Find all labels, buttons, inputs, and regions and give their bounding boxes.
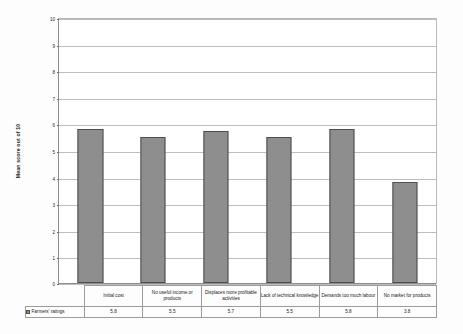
category-label-cell: Lack of technical knowledge <box>260 286 319 307</box>
y-tick-label-3: 3 <box>52 203 55 208</box>
bar <box>329 129 354 283</box>
y-tick-label-2: 2 <box>52 229 55 234</box>
data-table: Initial costNo useful income or products… <box>25 285 437 318</box>
table-row-values: Farmers' ratings5.85.55.75.55.83.8 <box>26 307 437 318</box>
value-cell: 3.8 <box>378 307 437 318</box>
category-label-cell: Displaces more profitable activities <box>202 286 261 307</box>
y-tick-label-5: 5 <box>52 150 55 155</box>
legend-entry: Farmers' ratings <box>26 307 85 318</box>
bar-slot <box>310 19 373 283</box>
value-cell: 5.5 <box>143 307 202 318</box>
y-tick-label-7: 7 <box>52 96 55 101</box>
legend-swatch-icon <box>26 310 30 314</box>
bar <box>266 137 291 283</box>
value-cell: 5.5 <box>260 307 319 318</box>
plot-area: 109876543210 <box>58 18 437 284</box>
category-label-cell: No market for products <box>378 286 437 307</box>
value-cell: 5.8 <box>319 307 378 318</box>
value-cell: 5.8 <box>84 307 143 318</box>
bar-series <box>59 19 436 283</box>
y-axis-title-container: Mean score out of 10 <box>0 18 36 284</box>
y-tick-label-9: 9 <box>52 43 55 48</box>
category-label-cell: Initial cost <box>84 286 143 307</box>
bar-slot <box>122 19 185 283</box>
table-corner-blank <box>26 286 85 307</box>
bar-slot <box>247 19 310 283</box>
y-tick-label-4: 4 <box>52 176 55 181</box>
bar <box>392 182 417 283</box>
category-label-cell: Demands too much labour <box>319 286 378 307</box>
bar <box>141 137 166 283</box>
category-label-cell: No useful income or products <box>143 286 202 307</box>
bar <box>78 129 103 283</box>
legend-label: Farmers' ratings <box>32 309 65 315</box>
table-row-categories: Initial costNo useful income or products… <box>26 286 437 307</box>
chart-page: Mean score out of 10 109876543210 Initia… <box>0 0 463 334</box>
bar-slot <box>373 19 436 283</box>
y-tick-label-8: 8 <box>52 70 55 75</box>
y-tick-label-10: 10 <box>50 17 55 22</box>
bar <box>204 131 229 283</box>
bar-slot <box>59 19 122 283</box>
value-cell: 5.7 <box>202 307 261 318</box>
y-tick-label-6: 6 <box>52 123 55 128</box>
y-tick-label-1: 1 <box>52 256 55 261</box>
bar-slot <box>185 19 248 283</box>
y-axis-title: Mean score out of 10 <box>15 124 21 179</box>
